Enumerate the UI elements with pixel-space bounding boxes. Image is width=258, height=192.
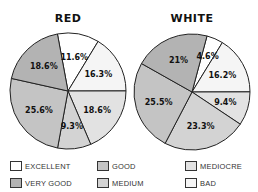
legend-item-medium: MEDIUM (97, 177, 144, 189)
legend: EXCELLENT GOOD MEDIOCRE VERY GOOD MEDIUM… (0, 158, 258, 192)
legend-swatch-good (97, 161, 109, 171)
slice-value-label: 18.6% (83, 106, 111, 115)
slice-value-label: 4.6% (196, 52, 218, 61)
slice-value-label: 21% (169, 56, 188, 65)
pie-chart-white: 4.6%16.2%9.4%23.3%25.5%21% (134, 34, 250, 150)
slice-value-label: 11.6% (60, 53, 88, 62)
pie-chart-red: 11.6%16.3%18.6%9.3%25.6%18.6% (10, 33, 126, 149)
legend-label: MEDIOCRE (200, 162, 242, 171)
slice-value-label: 23.3% (187, 122, 215, 131)
slice-value-label: 16.3% (84, 70, 112, 79)
legend-item-bad: BAD (185, 177, 216, 189)
legend-label: EXCELLENT (25, 162, 71, 171)
legend-swatch-medium (97, 178, 109, 188)
slice-value-label: 25.6% (25, 106, 53, 115)
legend-label: GOOD (112, 162, 136, 171)
pie-charts: 11.6%16.3%18.6%9.3%25.6%18.6% 4.6%16.2%9… (0, 0, 258, 158)
slice-value-label: 9.4% (214, 98, 236, 107)
legend-item-good: GOOD (97, 160, 136, 172)
legend-swatch-very-good (10, 178, 22, 188)
slice-value-label: 25.5% (145, 98, 173, 107)
legend-swatch-bad (185, 178, 197, 188)
slice-value-label: 9.3% (61, 122, 83, 131)
legend-item-mediocre: MEDIOCRE (185, 160, 242, 172)
legend-swatch-mediocre (185, 161, 197, 171)
slice-value-label: 16.2% (208, 71, 236, 80)
legend-label: MEDIUM (112, 179, 144, 188)
legend-label: VERY GOOD (25, 179, 72, 188)
slice-value-label: 18.6% (30, 62, 58, 71)
legend-swatch-excellent (10, 161, 22, 171)
legend-item-excellent: EXCELLENT (10, 160, 71, 172)
legend-label: BAD (200, 179, 216, 188)
legend-item-very-good: VERY GOOD (10, 177, 72, 189)
